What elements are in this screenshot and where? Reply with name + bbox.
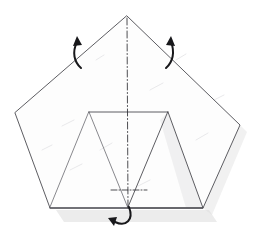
origami-figure-canvas (0, 0, 257, 235)
texture-streak (176, 54, 186, 60)
origami-diagram (0, 0, 257, 235)
texture-streak (214, 95, 224, 100)
right-fold-arrow-head (166, 36, 175, 46)
left-fold-arrow-head (73, 36, 82, 46)
bottom-drop-shadow (56, 210, 217, 222)
